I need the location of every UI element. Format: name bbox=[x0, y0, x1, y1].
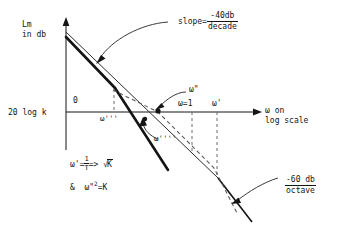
equation-1-relation: => bbox=[89, 160, 99, 169]
figure-canvas: Lm in db 0 20 log k slope=-40dbdecade ω'… bbox=[0, 0, 340, 231]
leader-slope-60db bbox=[231, 178, 278, 204]
equation-1-radicand: K bbox=[107, 159, 113, 170]
slope-60db-fraction: -60 dboctave bbox=[285, 175, 316, 196]
slope-40db-annotation: slope=-40dbdecade bbox=[178, 11, 238, 32]
slope-40db-prefix: slope= bbox=[178, 17, 207, 26]
y-axis-label-line2: in db bbox=[22, 30, 46, 39]
x-axis-label-line2: log scale bbox=[265, 116, 308, 125]
slope-40db-fraction: -40dbdecade bbox=[207, 11, 238, 32]
equation-line-1: ω'=1T=> √K bbox=[70, 155, 113, 172]
x-axis-arrowhead bbox=[253, 109, 262, 116]
slope-60db-numerator: -60 db bbox=[285, 175, 316, 186]
gain-20logk-label: 20 log k bbox=[8, 108, 47, 118]
equation-2-ampersand: & bbox=[70, 183, 75, 192]
label-omega-unity: ω=1 bbox=[178, 99, 192, 109]
y-axis-label: Lm in db bbox=[22, 20, 46, 40]
slope-40db-denominator: decade bbox=[207, 22, 238, 32]
label-omega-tripleprime: ω''' bbox=[100, 114, 118, 124]
equation-2-lhs: ω" bbox=[84, 183, 94, 192]
equation-2-rhs: =K bbox=[98, 183, 108, 192]
x-axis-label-line1: ω on bbox=[265, 106, 284, 115]
thin-asymptote-curve bbox=[66, 32, 252, 222]
label-omega-quadprime: ω'''' bbox=[154, 134, 177, 144]
x-axis-label: ω on log scale bbox=[265, 106, 308, 126]
slope-60db-denominator: octave bbox=[285, 186, 316, 196]
leader-slope-40db bbox=[96, 22, 168, 64]
thick-asymptote-curve bbox=[66, 37, 168, 170]
equation-1-lhs: ω'= bbox=[70, 160, 84, 169]
label-omega-prime: ω' bbox=[212, 99, 222, 109]
equation-line-2: & ω"2=K bbox=[70, 179, 113, 193]
slope-40db-numerator: -40db bbox=[207, 11, 238, 22]
y-axis-arrowhead bbox=[63, 17, 70, 26]
axis-group bbox=[63, 17, 262, 150]
equation-block: ω'=1T=> √K & ω"2=K bbox=[70, 155, 113, 193]
origin-zero-label: 0 bbox=[73, 96, 78, 106]
y-axis-label-line1: Lm bbox=[22, 20, 32, 29]
label-omega-doubleprime: ω" bbox=[189, 85, 199, 95]
slope-60db-annotation: -60 dboctave bbox=[285, 175, 316, 196]
